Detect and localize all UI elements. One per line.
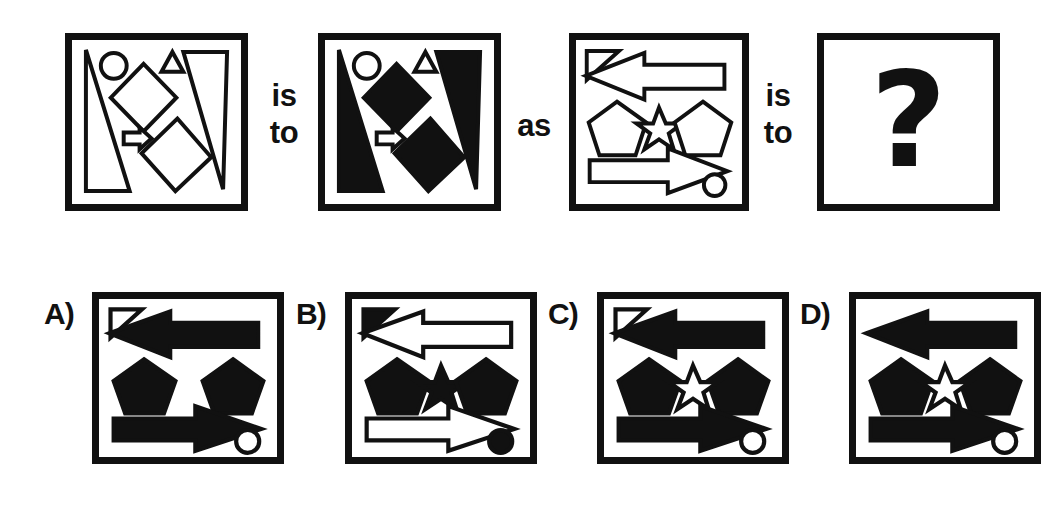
- pentagon-left-shape: [114, 359, 176, 413]
- panel-b-figure: [325, 40, 494, 204]
- option-a-panel[interactable]: [92, 292, 284, 464]
- diamond-lower-shape: [395, 119, 465, 192]
- option-b-panel[interactable]: [345, 292, 537, 464]
- panel-c-figure: [576, 40, 742, 204]
- answer-slot-panel: ?: [817, 33, 1000, 211]
- circle-small-shape: [993, 430, 1016, 453]
- connector-is-to-first: is to: [258, 78, 310, 151]
- connector-second-line1: is: [752, 78, 804, 115]
- circle-small-shape: [489, 430, 512, 453]
- triangle-small-shape: [161, 52, 183, 72]
- pentagon-left-shape: [619, 359, 681, 413]
- arrow-left-large-shape: [866, 311, 1015, 357]
- circle-small-shape: [236, 430, 259, 453]
- connector-first-line1: is: [258, 78, 310, 115]
- pentagon-right-shape: [203, 359, 264, 413]
- circle-small-shape: [741, 430, 764, 453]
- stimulus-panel-b: [318, 33, 501, 211]
- question-mark: ?: [870, 54, 947, 186]
- circle-small-shape: [704, 174, 725, 196]
- option-c-panel[interactable]: [597, 292, 789, 464]
- option-c-label: C): [548, 297, 578, 331]
- pentagon-right-shape: [456, 359, 517, 413]
- connector-first-line2: to: [258, 115, 310, 152]
- pentagon-right-shape: [708, 359, 769, 413]
- option-a-figure: [99, 299, 277, 457]
- option-d-figure: [856, 299, 1034, 457]
- connector-is-to-second: is to: [752, 78, 804, 151]
- triangle-small-shape: [414, 52, 436, 72]
- circle-small-shape: [354, 53, 380, 79]
- question-mark-wrap: ?: [824, 40, 993, 204]
- pentagon-left-shape: [871, 359, 933, 413]
- option-d-label: D): [800, 297, 830, 331]
- panel-a-figure: [72, 40, 241, 204]
- diamond-lower-shape: [142, 119, 212, 192]
- star-small-shape: [921, 366, 970, 410]
- option-c-figure: [604, 299, 782, 457]
- pentagon-right-shape: [675, 102, 732, 156]
- pentagon-left-shape: [589, 102, 647, 156]
- star-small-shape: [669, 366, 718, 410]
- connector-second-line2: to: [752, 115, 804, 152]
- circle-small-shape: [101, 53, 127, 79]
- connector-as: as: [508, 108, 560, 145]
- connector-as-text: as: [508, 108, 560, 145]
- pentagon-left-shape: [367, 359, 429, 413]
- pentagon-right-shape: [960, 359, 1021, 413]
- option-b-label: B): [296, 297, 326, 331]
- stimulus-panel-a: [65, 33, 248, 211]
- option-b-figure: [352, 299, 530, 457]
- stimulus-panel-c: [569, 33, 749, 211]
- option-d-panel[interactable]: [849, 292, 1041, 464]
- option-a-label: A): [44, 297, 74, 331]
